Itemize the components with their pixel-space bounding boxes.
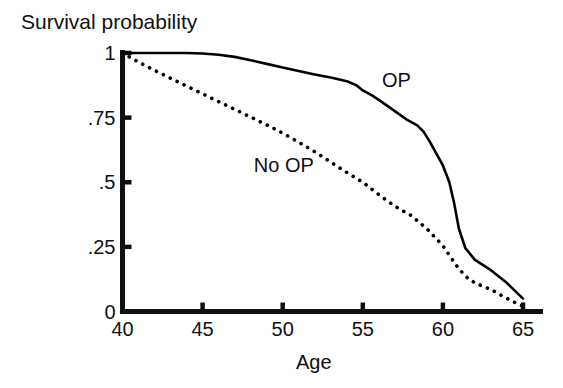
x-axis-title: Age <box>296 352 332 372</box>
x-tick-label: 65 <box>512 319 534 339</box>
series-line-op <box>123 53 524 299</box>
y-tick-label: 1 <box>104 43 115 63</box>
y-tick-label: .5 <box>99 172 116 192</box>
axis-group <box>120 50 543 312</box>
series-label-op: OP <box>382 70 411 90</box>
y-axis-title: Survival probability <box>21 11 197 32</box>
series-line-no-op <box>123 53 524 306</box>
series-label-no-op: No OP <box>254 155 314 175</box>
survival-probability-figure: Survival probability Age 0.25.5.751 4045… <box>0 0 563 388</box>
x-tick-label: 55 <box>352 319 374 339</box>
x-tick-label: 45 <box>191 319 213 339</box>
x-tick-label: 50 <box>272 319 294 339</box>
x-tick-label: 40 <box>111 319 133 339</box>
y-tick-label: .25 <box>88 237 116 257</box>
x-tick-label: 60 <box>432 319 454 339</box>
y-tick-label: .75 <box>88 108 116 128</box>
series-paths <box>123 53 524 306</box>
